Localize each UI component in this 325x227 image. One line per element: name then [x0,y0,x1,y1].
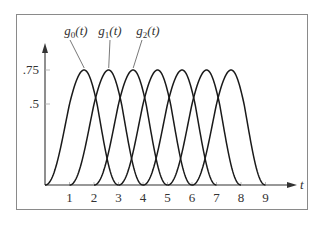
annotation-leader-line [70,40,84,68]
curves [45,70,266,185]
annotation-label: g2(t) [136,23,159,40]
x-tick-label: 2 [91,190,98,205]
x-axis-label: t [300,177,304,192]
x-tick-label: 4 [140,190,147,205]
x-tick-label: 5 [164,190,171,205]
annotation-leader-line [109,40,110,68]
x-tick-label: 6 [189,190,196,205]
curve-g3t [119,70,193,185]
x-tick-label: 7 [213,190,220,205]
x-tick-label: 3 [115,190,122,205]
y-tick-label: .75 [23,62,39,77]
x-tick-label: 9 [262,190,269,205]
annotation-label: g1(t) [98,23,121,40]
curve-g0t [45,70,119,185]
curve-g5t [168,70,242,185]
x-tick-label: 1 [66,190,73,205]
x-tick-label: 8 [238,190,245,205]
y-tick-label: .5 [29,96,39,111]
annotation-leader-line [133,40,142,68]
curve-g6t [192,70,266,185]
curve-g2t [94,70,168,185]
annotations: g0(t)g1(t)g2(t) [64,23,159,68]
annotation-label: g0(t) [64,23,87,40]
curve-g1t [70,70,144,185]
x-axis-arrow-icon [287,182,297,188]
curve-g4t [143,70,217,185]
y-axis-arrow-icon [42,43,48,53]
chart-plot: t123456789.5.75 g0(t)g1(t)g2(t) [0,0,325,227]
